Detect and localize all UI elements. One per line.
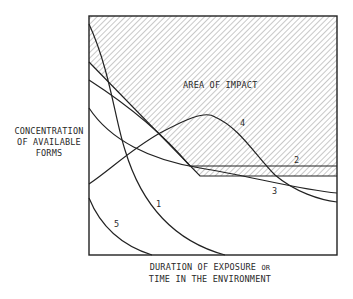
curve-3-label: 3 [272, 186, 277, 197]
x-axis-label-or: OR [261, 264, 270, 272]
y-axis-label-line1: CONCENTRATION [14, 126, 84, 137]
area-of-impact-label: AREA OF IMPACT [183, 80, 257, 91]
x-axis-label-line1: DURATION OF EXPOSURE OR [140, 262, 280, 274]
x-axis-label: DURATION OF EXPOSURE OR TIME IN THE ENVI… [140, 262, 280, 285]
curve-4-label: 4 [240, 118, 245, 129]
y-axis-label: CONCENTRATION OF AVAILABLE FORMS [14, 126, 84, 159]
x-axis-label-line2: TIME IN THE ENVIRONMENT [140, 274, 280, 285]
y-axis-label-line3: FORMS [14, 148, 84, 159]
curve-5-label: 5 [114, 219, 119, 230]
x-axis-label-main: DURATION OF EXPOSURE [150, 262, 256, 272]
curve-5 [89, 198, 152, 255]
curve-1-label: 1 [156, 199, 161, 210]
y-axis-label-line2: OF AVAILABLE [14, 137, 84, 148]
curve-2-label: 2 [294, 155, 299, 166]
